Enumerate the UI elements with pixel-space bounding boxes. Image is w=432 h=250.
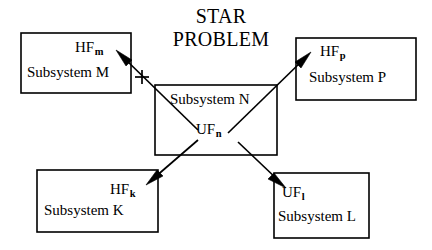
subsystem-k-flow-subscript: k bbox=[129, 188, 135, 199]
star-problem-diagram: STAR PROBLEM HFm Subsystem M HFp Subsyst… bbox=[0, 0, 432, 250]
subsystem-l-box bbox=[274, 173, 369, 238]
subsystem-n-flow-base: UF bbox=[196, 121, 215, 137]
subsystem-m-label: Subsystem M bbox=[27, 65, 109, 80]
subsystem-m-flow-base: HF bbox=[75, 39, 94, 55]
title-line-2: PROBLEM bbox=[126, 29, 316, 49]
subsystem-l-flow-base: UF bbox=[282, 184, 301, 200]
subsystem-m-flow-label: HFm bbox=[75, 40, 103, 55]
subsystem-m-flow-subscript: m bbox=[94, 46, 103, 57]
title-line-1: STAR bbox=[126, 6, 316, 26]
subsystem-k-flow-label: HFk bbox=[110, 182, 136, 197]
subsystem-p-flow-base: HF bbox=[320, 43, 339, 59]
subsystem-l-flow-label: UFl bbox=[282, 185, 305, 200]
diagram-title: STAR PROBLEM bbox=[126, 6, 316, 49]
subsystem-k-label: Subsystem K bbox=[44, 203, 124, 218]
subsystem-l-label: Subsystem L bbox=[278, 209, 356, 224]
plus-sign-mark bbox=[135, 70, 149, 84]
subsystem-n-flow-subscript: n bbox=[215, 128, 221, 139]
subsystem-l-flow-subscript: l bbox=[301, 191, 304, 202]
subsystem-k-flow-base: HF bbox=[110, 181, 129, 197]
subsystem-p-label: Subsystem P bbox=[309, 70, 386, 85]
subsystem-p-flow-subscript: p bbox=[339, 50, 345, 61]
subsystem-n-flow-label: UFn bbox=[196, 122, 222, 137]
subsystem-n-label: Subsystem N bbox=[170, 92, 250, 107]
subsystem-p-flow-label: HFp bbox=[320, 44, 346, 59]
subsystem-k-box bbox=[37, 170, 158, 232]
